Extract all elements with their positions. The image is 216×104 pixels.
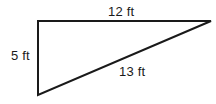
left-side-length-label: 5 ft	[11, 49, 30, 62]
top-side-length-label: 12 ft	[108, 5, 134, 18]
hypotenuse-length-label: 13 ft	[119, 65, 145, 78]
triangle-figure: 12 ft 5 ft 13 ft	[0, 0, 216, 104]
triangle-outline	[38, 21, 211, 95]
